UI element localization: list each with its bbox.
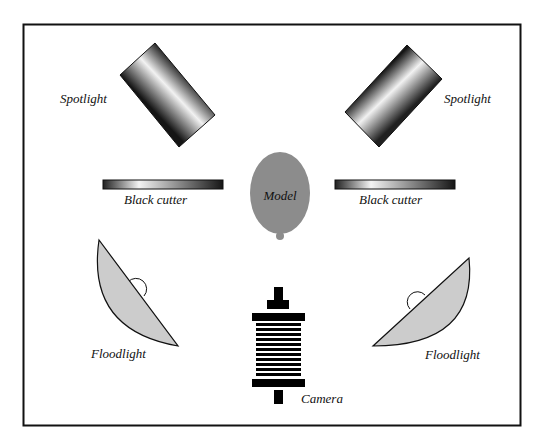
spotlight-left-label: Spotlight [60, 91, 107, 106]
spotlight-right-label: Spotlight [444, 91, 491, 106]
model-nose-icon [276, 232, 284, 240]
model-label: Model [262, 188, 297, 203]
camera-label: Camera [301, 391, 343, 406]
cutter-bar-icon [103, 180, 223, 189]
lighting-diagram: Spotlight Spotlight Black cutter Black c… [0, 0, 544, 448]
black-cutter-right-label: Black cutter [359, 192, 423, 207]
black-cutter-left-label: Black cutter [124, 192, 188, 207]
cutter-bar-icon [335, 180, 455, 189]
floodlight-left-label: Floodlight [90, 346, 146, 361]
floodlight-right-label: Floodlight [424, 347, 480, 362]
